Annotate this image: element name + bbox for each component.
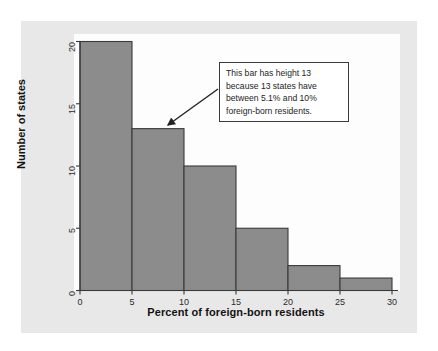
- callout-line-4: foreign-born residents.: [226, 105, 343, 118]
- histogram-bar: [80, 42, 132, 291]
- histogram-figure: 051015202530 05101520 Percent of foreign…: [0, 0, 438, 351]
- x-axis-tick-label: 10: [179, 297, 189, 307]
- y-axis-tick-label: 10: [67, 166, 77, 176]
- callout-leader-line: [168, 89, 218, 125]
- histogram-bar: [340, 278, 392, 290]
- callout-line-3: between 5.1% and 10%: [226, 92, 343, 105]
- callout-line-2: because 13 states have: [226, 80, 343, 93]
- histogram-bar: [184, 166, 236, 291]
- y-axis-title: Number of states: [15, 59, 27, 189]
- y-axis-tick-label: 5: [67, 228, 77, 233]
- x-axis-tick-label: 30: [387, 297, 397, 307]
- x-axis-tick-label: 0: [77, 297, 82, 307]
- histogram-bar: [288, 266, 340, 291]
- bar-height-callout: This bar has height 13 because 13 states…: [219, 62, 349, 122]
- x-axis-tick-label: 20: [283, 297, 293, 307]
- histogram-bar: [132, 129, 184, 291]
- x-axis-title: Percent of foreign-born residents: [80, 306, 392, 318]
- x-axis-tick-label: 25: [335, 297, 345, 307]
- y-axis-tick-label: 0: [67, 291, 77, 296]
- y-axis-tick-label: 20: [67, 42, 77, 52]
- chart-graphics: [0, 0, 438, 351]
- x-axis-tick-label: 15: [231, 297, 241, 307]
- x-axis-tick-label: 5: [129, 297, 134, 307]
- histogram-bar: [236, 228, 288, 290]
- callout-line-1: This bar has height 13: [226, 67, 343, 80]
- y-axis-tick-label: 15: [67, 104, 77, 114]
